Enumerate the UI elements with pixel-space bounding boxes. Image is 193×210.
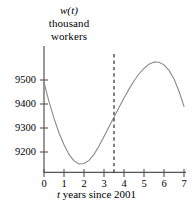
y-tick-label-9500: 9500 [4,74,36,85]
y-tick-label-9200: 9200 [4,146,36,157]
x-axis-title: t years since 2001 [0,188,193,201]
chart-figure: w(t) thousand workers 9500 9400 9300 [0,0,193,210]
y-tick-label-9400: 9400 [4,98,36,109]
x-axis-title-rest: years since 2001 [60,188,136,200]
y-tick-label-9300: 9300 [4,122,36,133]
